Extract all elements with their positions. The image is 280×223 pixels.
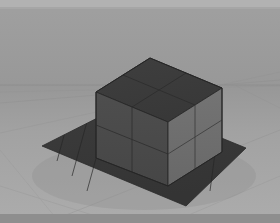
top-border-strip [0,0,280,7]
scene-viewport[interactable]: 3D Voxel Cube Render Isometric 3D render… [0,0,280,223]
top-border-fade [0,7,280,9]
bottom-border-strip [0,214,280,223]
render-canvas[interactable] [0,0,280,223]
